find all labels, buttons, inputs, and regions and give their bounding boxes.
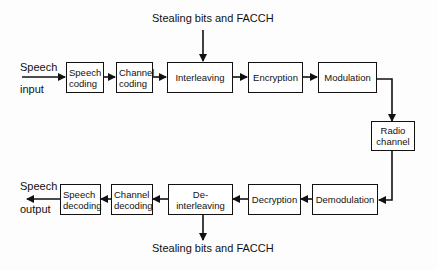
speech-input-label-1: Speech (20, 61, 57, 73)
block-label: Modulation (324, 72, 370, 83)
block-label: channel (376, 136, 409, 147)
interleaving-block: Interleaving (167, 62, 233, 93)
top-stealing-bits-label: Stealing bits and FACCH (152, 12, 274, 24)
block-label: Interleaving (175, 72, 224, 83)
speech-coding-block: Speechcoding (66, 62, 104, 93)
demodulation-block: Demodulation (312, 184, 378, 215)
channel-coding-block: Channelcoding (116, 62, 153, 93)
modulation-block: Modulation (318, 62, 377, 93)
block-label: Channel (119, 67, 154, 78)
block-label: Channel (114, 189, 149, 200)
diagram-canvas: Stealing bits and FACCH Stealing bits an… (0, 0, 437, 270)
bottom-stealing-bits-label: Stealing bits and FACCH (152, 242, 274, 254)
block-label: Decryption (252, 194, 297, 205)
speech-output-label-2: output (20, 203, 51, 215)
block-label: Speech (63, 189, 95, 200)
block-label: Demodulation (316, 194, 375, 205)
block-label: coding (69, 78, 97, 89)
speech-decoding-block: Speechdecoding (60, 184, 101, 215)
speech-output-label-1: Speech (20, 180, 57, 192)
channel-decoding-block: Channeldecoding (111, 184, 153, 215)
block-label: coding (119, 78, 147, 89)
block-label: Radio (381, 125, 406, 136)
block-label: decoding (63, 200, 102, 211)
speech-input-label-2: input (20, 83, 44, 95)
block-label: Encryption (253, 72, 298, 83)
block-label: Speech (69, 67, 101, 78)
block-label: decoding (114, 200, 153, 211)
encryption-block: Encryption (248, 62, 303, 93)
radio-channel-block: Radiochannel (371, 121, 415, 151)
decryption-block: Decryption (248, 184, 301, 215)
block-label: De-interleaving (169, 189, 232, 211)
de-interleaving-block: De-interleaving (168, 184, 233, 215)
